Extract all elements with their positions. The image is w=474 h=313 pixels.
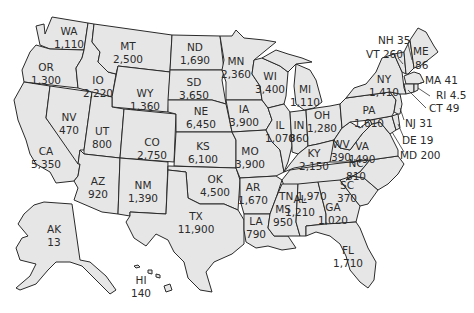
label-ak: AK13 bbox=[47, 223, 61, 248]
state-ct[interactable] bbox=[404, 84, 414, 94]
callout-md: MD 200 bbox=[400, 149, 441, 161]
label-sd: SD3,650 bbox=[179, 76, 209, 101]
label-or: OR1,300 bbox=[31, 61, 61, 86]
callout-me-val: 86 bbox=[415, 59, 428, 71]
label-wy: WY1,360 bbox=[130, 87, 160, 112]
label-oh: OH1,280 bbox=[307, 109, 337, 134]
label-wi: WI3,400 bbox=[255, 70, 285, 95]
label-tx: TX11,900 bbox=[178, 210, 215, 235]
label-sc: SC370 bbox=[337, 179, 357, 204]
label-az: AZ920 bbox=[88, 175, 108, 200]
label-nc: NC810 bbox=[346, 157, 366, 182]
label-co: CO2,750 bbox=[137, 136, 167, 161]
label-mn: MN2,360 bbox=[221, 55, 251, 80]
state-ak[interactable] bbox=[16, 202, 116, 294]
label-nv: NV470 bbox=[59, 111, 79, 136]
callout-de: DE 19 bbox=[402, 134, 433, 146]
label-ia: IA3,900 bbox=[229, 103, 259, 128]
callout-vt: VT 260 bbox=[366, 48, 403, 60]
leader-ct bbox=[408, 90, 426, 108]
label-ky: KY2,150 bbox=[299, 147, 329, 172]
label-hi: HI140 bbox=[131, 274, 151, 299]
callout-nh: NH 35 bbox=[378, 34, 410, 46]
label-fl: FL1,710 bbox=[333, 244, 363, 269]
callout-ct: CT 49 bbox=[429, 102, 459, 114]
label-ks: KS6,100 bbox=[188, 140, 218, 165]
state-hi-4[interactable] bbox=[164, 284, 172, 292]
label-mt: MT2,500 bbox=[113, 40, 143, 65]
label-ca: CA5,350 bbox=[31, 145, 61, 170]
callout-ma: MA 41 bbox=[425, 74, 458, 86]
label-ny: NY1,410 bbox=[369, 73, 399, 98]
label-tn: TN 1,970 bbox=[279, 190, 327, 202]
label-la: LA790 bbox=[246, 215, 266, 240]
state-hi-3[interactable] bbox=[156, 274, 160, 278]
callout-me-abbr: ME bbox=[413, 45, 429, 57]
state-ri[interactable] bbox=[414, 84, 418, 92]
label-ne: NE6,450 bbox=[186, 105, 216, 130]
label-nm: NM1,390 bbox=[128, 179, 158, 204]
label-nd: ND1,690 bbox=[180, 41, 210, 66]
label-pa: PA1,610 bbox=[354, 104, 384, 129]
state-hi-1[interactable] bbox=[134, 265, 140, 268]
label-ok: OK4,500 bbox=[200, 173, 230, 198]
label-mi: MI1,110 bbox=[290, 83, 320, 108]
label-ut: UT800 bbox=[92, 125, 112, 150]
label-id: IO2,220 bbox=[83, 74, 113, 99]
label-ga: GA1,020 bbox=[318, 201, 348, 226]
leader-ri bbox=[418, 88, 430, 96]
label-mo: MO3,900 bbox=[235, 145, 265, 170]
label-ar: AR1,670 bbox=[238, 181, 268, 206]
label-wa: WA1,110 bbox=[54, 25, 84, 50]
callout-ri: RI 4.5 bbox=[436, 89, 466, 101]
leader-nj bbox=[400, 108, 404, 120]
callout-nj: NJ 31 bbox=[405, 117, 433, 129]
